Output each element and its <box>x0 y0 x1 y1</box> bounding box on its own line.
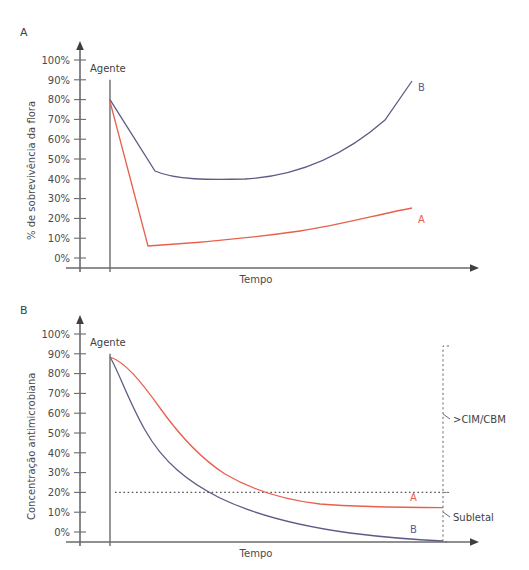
panel-a-ytick-3: 70% <box>48 114 70 125</box>
panel-b-x-axis-arrowhead <box>470 538 479 546</box>
panel-b-ytick-0: 100% <box>41 329 70 340</box>
panel-b-y-tick-labels: 100% 90% 80% 70% 60% 50% 40% 30% 20% 10%… <box>41 329 70 538</box>
panel-a-series-b-line <box>110 81 412 179</box>
panel-b-ytick-9: 10% <box>48 507 70 518</box>
panel-b-y-axis-arrowhead <box>76 315 84 324</box>
panel-b-ytick-5: 50% <box>48 428 70 439</box>
panel-a-ytick-0: 100% <box>41 55 70 66</box>
panel-b-ytick-1: 90% <box>48 349 70 360</box>
panel-b-ytick-4: 60% <box>48 408 70 419</box>
panel-a-series-a-label: A <box>418 214 425 225</box>
panel-a: A % de sobrevivência da flora Tempo 100%… <box>0 0 529 290</box>
panel-a-x-axis-arrowhead <box>470 264 479 272</box>
panel-a-ytick-6: 40% <box>48 174 70 185</box>
panel-a-y-axis-arrowhead <box>76 41 84 50</box>
panel-b-ytick-3: 70% <box>48 388 70 399</box>
panel-b-bracket-subletal-label: Subletal <box>453 512 494 523</box>
panel-b-series-a-label: A <box>410 492 417 503</box>
panel-b-ytick-8: 20% <box>48 487 70 498</box>
panel-b-series-a-line <box>110 357 443 508</box>
panel-b-series-b-label: B <box>410 524 417 535</box>
panel-a-ytick-5: 50% <box>48 154 70 165</box>
panel-b: B Concentração antimicrobiana Tempo 100%… <box>0 290 529 570</box>
panel-b-ytick-10: 0% <box>54 527 70 538</box>
panel-a-ytick-2: 80% <box>48 94 70 105</box>
panel-a-series-b-label: B <box>418 82 425 93</box>
panel-a-ytick-9: 10% <box>48 233 70 244</box>
panel-b-bracket-subletal: Subletal <box>443 492 494 542</box>
panel-a-y-tick-labels: 100% 90% 80% 70% 60% 50% 40% 30% 20% 10%… <box>41 55 70 264</box>
panel-a-agente-label: Agente <box>90 63 126 74</box>
panel-b-series-b-line <box>110 357 443 541</box>
panel-a-series-a-line <box>110 102 412 247</box>
panel-a-ytick-7: 30% <box>48 193 70 204</box>
panel-b-bracket-cim: >CIM/CBM <box>443 346 506 492</box>
panel-b-bracket-cim-label: >CIM/CBM <box>453 414 506 425</box>
panel-a-ytick-1: 90% <box>48 75 70 86</box>
panel-a-ytick-4: 60% <box>48 134 70 145</box>
panel-a-ytick-8: 20% <box>48 213 70 224</box>
panel-b-plot: 100% 90% 80% 70% 60% 50% 40% 30% 20% 10%… <box>0 290 529 570</box>
panel-b-ytick-2: 80% <box>48 368 70 379</box>
panel-a-ytick-10: 0% <box>54 253 70 264</box>
panel-a-plot: 100% 90% 80% 70% 60% 50% 40% 30% 20% 10%… <box>0 0 529 290</box>
panel-b-ytick-7: 30% <box>48 467 70 478</box>
panel-b-agente-label: Agente <box>90 337 126 348</box>
panel-b-ytick-6: 40% <box>48 448 70 459</box>
